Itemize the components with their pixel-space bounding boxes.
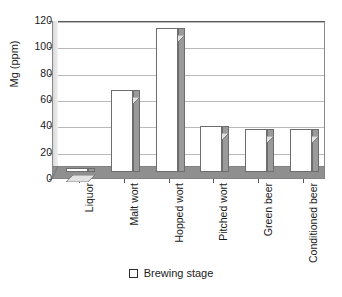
bar [290,129,312,179]
bar-front-face [66,168,88,172]
bar-series-brewing-stage [57,21,325,179]
x-axis-tick-label: Conditioned beer [307,183,319,263]
x-axis-tick-label: Liquor [83,183,95,212]
bar-front-face [290,129,312,172]
y-axis-tick-label: 60 [24,94,52,105]
x-axis-tick-mark [303,179,304,183]
legend-label: Brewing stage [144,267,214,279]
y-axis-tick-mark [49,179,52,180]
x-axis-tick-mark [124,179,125,183]
legend: Brewing stage [0,267,342,279]
bar [200,126,222,179]
y-axis-tick-label: 0 [24,173,52,184]
bar [66,168,88,179]
bar-front-face [245,129,267,172]
x-axis-tick-label: Malt wort [128,183,140,226]
bar [156,28,178,179]
x-axis-tick-mark [169,179,170,183]
x-axis-tick-mark [258,179,259,183]
x-axis-tick-label: Pitched wort [217,183,229,241]
bar [111,90,133,179]
bar-front-face [111,90,133,172]
y-axis-tick-label: 80 [24,68,52,79]
x-axis-tick-mark [213,179,214,183]
y-axis-tick-label: 100 [24,41,52,52]
y-axis-tick-label: 120 [24,15,52,26]
square-outline-icon [129,269,138,278]
y-axis-tick-labels: 020406080100120 [18,0,52,190]
x-axis-tick-label: Hopped wort [173,183,185,243]
bar-front-face [200,126,222,172]
bar-front-face [156,28,178,172]
bar-side-face [178,28,185,172]
x-axis-category-labels: LiquorMalt wortHopped wortPitched wortGr… [57,179,325,269]
y-axis-tick-label: 40 [24,120,52,131]
y-axis-tick-label: 20 [24,147,52,158]
x-axis-tick-label: Green beer [262,183,274,236]
bar-chart: Mg (ppm) 020406080100120 LiquorMalt wort… [0,0,342,297]
bar [245,129,267,179]
